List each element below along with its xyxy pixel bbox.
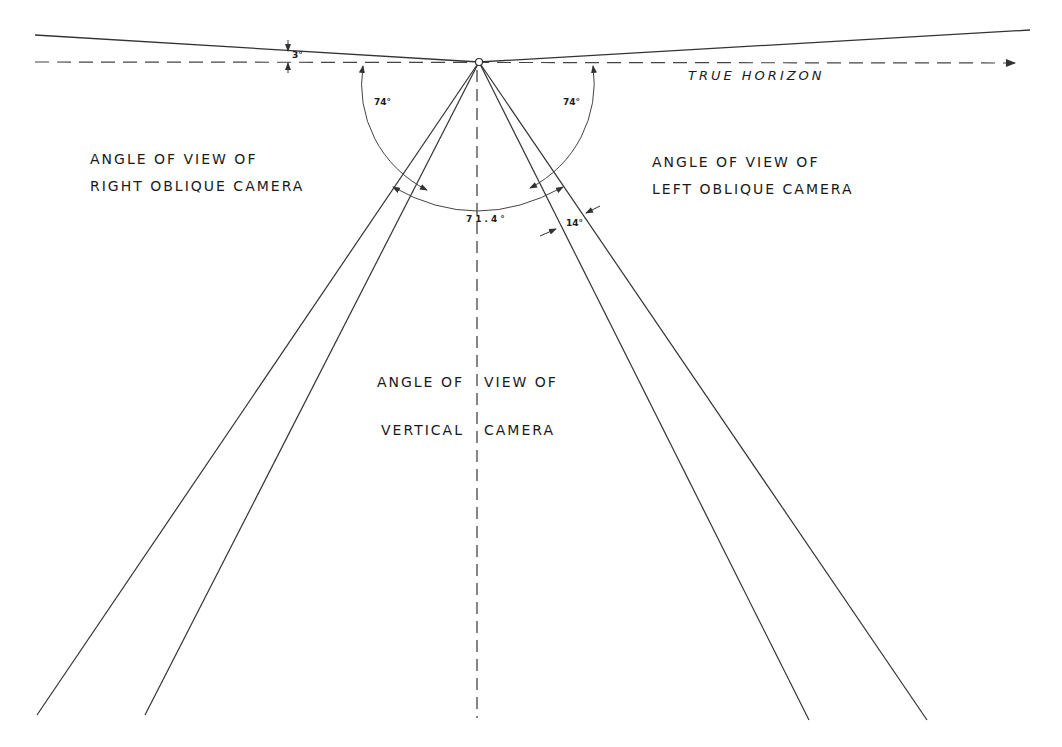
left-oblique-angle-arc xyxy=(530,66,594,188)
true-horizon-label: TRUE HORIZON xyxy=(688,68,825,83)
tilt-line-right xyxy=(479,30,1030,62)
vertical-angle-arc xyxy=(393,187,563,211)
tilt-angle-label: 3° xyxy=(292,50,303,60)
vertical-camera-label-right: VIEW OF CAMERA xyxy=(484,358,558,454)
right-oblique-label: ANGLE OF VIEW OF RIGHT OBLIQUE CAMERA xyxy=(90,146,304,200)
vertical-angle-label: 71.4° xyxy=(466,214,508,224)
right-oblique-angle-label: 74° xyxy=(374,97,391,107)
vertical-camera-label-left: ANGLE OF VERTICAL xyxy=(346,358,464,454)
camera-angle-diagram: 3° 74° 74° 71.4° 14° TRUE HORIZON ANGLE … xyxy=(0,0,1062,747)
left-oblique-label: ANGLE OF VIEW OF LEFT OBLIQUE CAMERA xyxy=(652,149,854,203)
true-horizon-line xyxy=(35,62,1015,63)
right-oblique-angle-arc xyxy=(362,66,427,190)
camera-station-point xyxy=(476,59,483,66)
left-oblique-angle-label: 74° xyxy=(563,97,580,107)
tilt-line-left xyxy=(35,35,479,62)
overlap-angle-label: 14° xyxy=(566,218,583,228)
